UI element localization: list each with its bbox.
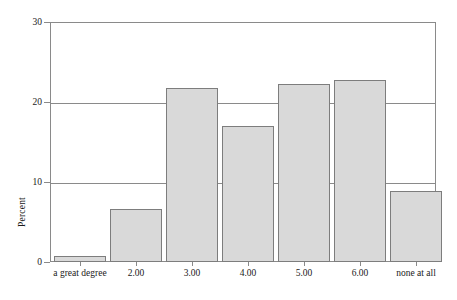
x-tick-3 bbox=[192, 262, 193, 266]
y-axis-title: Percent bbox=[17, 182, 27, 242]
bar-6 bbox=[334, 80, 386, 262]
x-tick-6 bbox=[360, 262, 361, 266]
y-axis-tick-label-20: 20 bbox=[2, 97, 42, 107]
bar-3 bbox=[166, 88, 218, 262]
x-tick-7 bbox=[416, 262, 417, 266]
y-tick-0 bbox=[44, 262, 50, 263]
y-axis-tick-label-30: 30 bbox=[2, 17, 42, 27]
x-tick-5 bbox=[304, 262, 305, 266]
bar-7 bbox=[390, 191, 442, 262]
bar-chart: 30 20 10 0 Percent a great degree 2.00 3… bbox=[0, 0, 457, 300]
y-axis-tick-label-0: 0 bbox=[2, 257, 42, 267]
x-tick-2 bbox=[136, 262, 137, 266]
x-tick-1 bbox=[80, 262, 81, 266]
bars-layer bbox=[50, 22, 436, 262]
bar-2 bbox=[110, 209, 162, 262]
bar-4 bbox=[222, 126, 274, 262]
bar-5 bbox=[278, 84, 330, 262]
x-axis-label-7: none at all bbox=[371, 267, 457, 279]
x-tick-4 bbox=[248, 262, 249, 266]
